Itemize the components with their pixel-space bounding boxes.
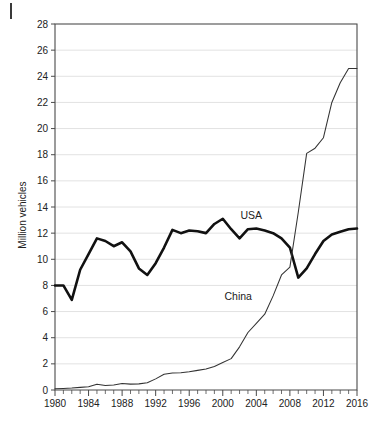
y-tick-label-24: 24 [37, 71, 49, 82]
y-tick-label-16: 16 [37, 175, 49, 186]
gridlines-group [55, 24, 357, 364]
y-tick-label-12: 12 [37, 228, 49, 239]
y-tick-label-8: 8 [42, 280, 48, 291]
y-tick-label-22: 22 [37, 97, 49, 108]
x-tick-label-1988: 1988 [111, 398, 134, 409]
y-tick-label-6: 6 [42, 306, 48, 317]
x-tick-label-1980: 1980 [44, 398, 67, 409]
y-tick-label-28: 28 [37, 19, 49, 30]
x-tick-label-2004: 2004 [245, 398, 268, 409]
y-axis-title: Million vehicles [17, 181, 28, 248]
y-tick-label-20: 20 [37, 123, 49, 134]
series-label-china: China [224, 290, 252, 302]
y-tick-label-14: 14 [37, 202, 49, 213]
line-chart: 0246810121416182022242628 19801984198819… [0, 0, 383, 428]
x-tick-label-2012: 2012 [312, 398, 335, 409]
x-tick-label-2016: 2016 [346, 398, 369, 409]
page-crop-mark [10, 3, 12, 19]
series-line-china [55, 68, 357, 388]
y-axis-ticks-group: 0246810121416182022242628 [37, 19, 55, 396]
x-tick-label-2000: 2000 [212, 398, 235, 409]
y-tick-label-10: 10 [37, 254, 49, 265]
y-tick-label-0: 0 [42, 385, 48, 396]
y-tick-label-2: 2 [42, 358, 48, 369]
series-label-usa: USA [240, 209, 262, 221]
data-series-group [55, 68, 357, 388]
y-tick-label-26: 26 [37, 45, 49, 56]
chart-figure: 0246810121416182022242628 19801984198819… [0, 0, 383, 428]
x-tick-label-1996: 1996 [178, 398, 201, 409]
y-tick-label-4: 4 [42, 332, 48, 343]
series-labels-group: USAChina [224, 209, 262, 301]
y-tick-label-18: 18 [37, 149, 49, 160]
x-tick-label-1984: 1984 [77, 398, 100, 409]
x-tick-label-2008: 2008 [279, 398, 302, 409]
x-tick-label-1992: 1992 [145, 398, 168, 409]
x-axis-ticks-group: 1980198419881992199620002004200820122016 [44, 390, 369, 409]
